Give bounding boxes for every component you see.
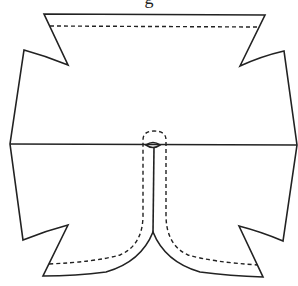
fold-line	[10, 144, 297, 145]
top-hem-stitching	[50, 26, 257, 27]
diagram-canvas: g	[0, 0, 298, 286]
center-opening-slit	[153, 147, 154, 232]
pattern-diagram	[0, 0, 298, 286]
